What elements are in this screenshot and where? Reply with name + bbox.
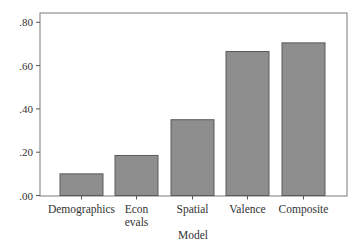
y-tick-label: .40: [19, 103, 33, 115]
bar-spatial: [171, 120, 214, 196]
x-tick-label: Valence: [229, 203, 265, 215]
y-tick-label: .20: [19, 146, 33, 158]
x-tick-label: Composite: [279, 203, 329, 216]
x-axis: DemographicsEconevalsSpatialValenceCompo…: [48, 196, 328, 229]
bar-demographics: [60, 174, 103, 196]
y-axis: .00.20.40.60.80: [19, 16, 40, 201]
x-tick-label: evals: [125, 216, 149, 228]
x-axis-title: Model: [178, 229, 208, 241]
bar-econ-evals: [115, 155, 158, 195]
bar-valence: [226, 52, 269, 196]
y-tick-label: .60: [19, 60, 33, 72]
x-tick-label: Econ: [125, 203, 149, 215]
bar-chart: .00.20.40.60.80 DemographicsEconevalsSpa…: [0, 0, 363, 245]
y-tick-label: .00: [19, 190, 33, 202]
y-tick-label: .80: [19, 16, 33, 28]
x-tick-label: Spatial: [177, 203, 209, 216]
x-tick-label: Demographics: [48, 203, 116, 216]
bar-composite: [282, 43, 325, 196]
bars: [60, 43, 325, 196]
